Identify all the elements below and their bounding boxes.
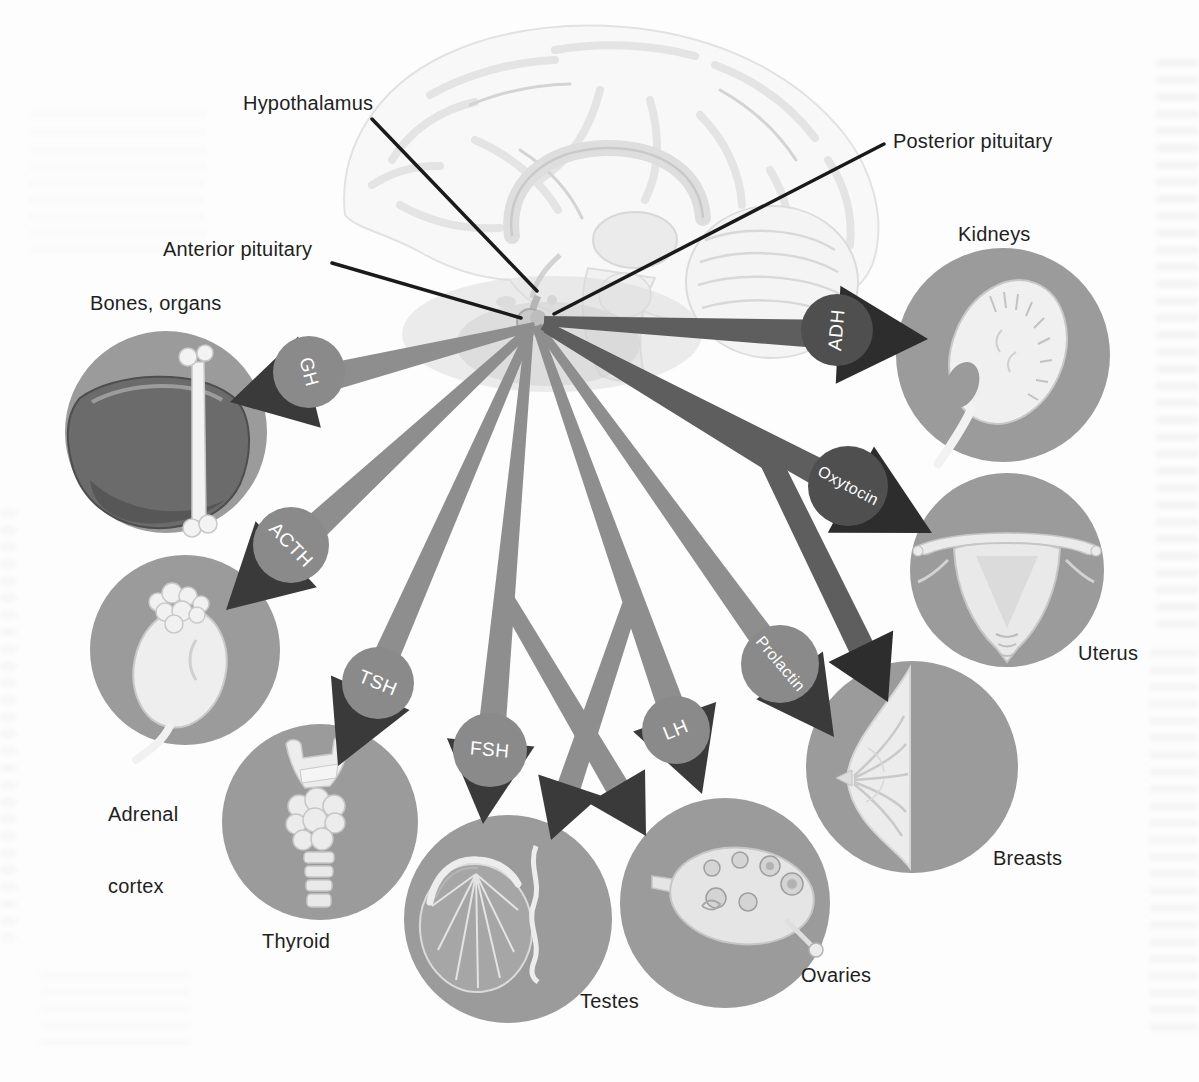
kidneys-target-circle [896, 248, 1110, 464]
ovaries-target-circle [620, 798, 830, 1008]
thyroid-label: Thyroid [262, 929, 330, 953]
bones-organs-target-circle [65, 331, 267, 537]
ovaries-label: Ovaries [801, 963, 871, 987]
hormone-badge-oxytocin: Oxytocin [808, 446, 888, 526]
bones-organs-label: Bones, organs [90, 291, 222, 315]
hypothalamus-label: Hypothalamus [243, 91, 373, 115]
diagram-canvas [0, 0, 1199, 1082]
breasts-target-circle [806, 661, 1018, 873]
hormone-badge-adh: ADH [801, 294, 873, 366]
uterus-label: Uterus [1078, 641, 1138, 665]
anterior-pituitary-label: Anterior pituitary [163, 237, 312, 261]
kidneys-label: Kidneys [958, 222, 1031, 246]
adrenal-cortex-label-line2: cortex [108, 874, 178, 898]
testes-label: Testes [580, 989, 639, 1013]
posterior-pituitary-label: Posterior pituitary [893, 129, 1052, 153]
adrenal-cortex-label: Adrenal cortex [108, 754, 178, 946]
adrenal-cortex-label-line1: Adrenal [108, 802, 178, 826]
hormone-badge-fsh: FSH [453, 713, 527, 787]
hormone-badge-gh: GH [273, 336, 345, 408]
hormone-badge-tsh: TSH [342, 647, 414, 719]
hormone-badge-acth: ACTH [253, 507, 329, 583]
endocrine-diagram: Hypothalamus Anterior pituitary Posterio… [0, 0, 1199, 1082]
hormone-badge-lh: LH [642, 696, 710, 764]
uterus-target-circle [910, 473, 1104, 667]
breasts-label: Breasts [993, 846, 1062, 870]
hormone-badge-prolactin: Prolactin [741, 625, 819, 703]
thyroid-target-circle [222, 724, 418, 920]
